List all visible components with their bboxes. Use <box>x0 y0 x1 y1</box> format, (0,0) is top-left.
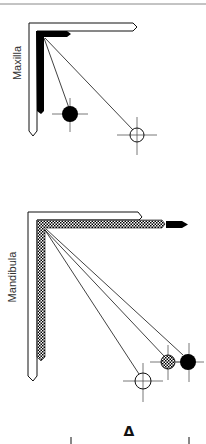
mandibula-line-hatched <box>45 230 164 356</box>
mandibula-label: Mandibula <box>6 251 18 303</box>
maxilla-outer-arm <box>29 23 137 136</box>
mandibula-open-circle-marker <box>123 363 163 402</box>
maxilla-label: Maxilla <box>11 45 23 80</box>
mandibula-black-tip <box>166 221 188 228</box>
maxilla-line-open <box>45 38 133 130</box>
mandibula-panel: Mandibula <box>6 212 204 402</box>
filled-circle-icon <box>180 354 196 370</box>
delta-symbol: Δ <box>124 423 135 439</box>
mandibula-hatched-bar <box>37 220 165 361</box>
hatched-circle-icon <box>161 355 175 369</box>
filled-circle-icon <box>62 106 78 122</box>
maxilla-panel: Maxilla <box>11 23 157 155</box>
maxilla-inner-bar <box>36 31 71 114</box>
maxilla-open-circle-marker <box>117 117 157 155</box>
maxilla-filled-circle-marker <box>52 98 88 132</box>
maxilla-line-filled <box>44 38 69 108</box>
mandibula-filled-circle-marker <box>176 343 204 382</box>
diagram-canvas: Maxilla Mandibula <box>0 0 206 444</box>
